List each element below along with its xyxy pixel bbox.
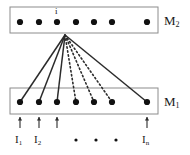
ellipsis-dot <box>74 138 77 141</box>
memory-node-dot <box>73 99 79 105</box>
connection-line-dotted <box>65 35 76 102</box>
memory-node-dot <box>91 99 97 105</box>
label-subscript: 2 <box>176 20 180 29</box>
memory-node-dot <box>17 19 23 25</box>
input-arrows <box>18 117 149 128</box>
memory-node-dot <box>109 99 115 105</box>
connection-line-solid <box>65 35 147 102</box>
memory-node-dot <box>91 19 97 25</box>
memory-node-dot <box>144 99 150 105</box>
memory-node-dot <box>109 19 115 25</box>
memory-node-dot <box>54 99 60 105</box>
memory-node-dot <box>17 99 23 105</box>
selected-node-label: i <box>55 7 58 16</box>
diagram-svg <box>0 0 190 155</box>
input-label: I2 <box>34 134 41 145</box>
label-subscript: 1 <box>19 139 23 147</box>
memory-node-dot <box>144 19 150 25</box>
label-subscript: n <box>146 139 150 147</box>
memory-node-dot <box>73 19 79 25</box>
top-layer-nodes <box>17 19 150 25</box>
memory-node-dot <box>36 19 42 25</box>
top-layer-box <box>10 7 158 33</box>
figure-canvas: M2 i M1 I1I2In <box>0 0 190 155</box>
memory-node-dot <box>36 99 42 105</box>
label-subscript: 1 <box>176 101 180 110</box>
input-label: I1 <box>15 134 22 145</box>
input-ellipsis <box>74 138 117 141</box>
top-layer-label: M2 <box>164 14 180 27</box>
bottom-layer-label: M1 <box>164 95 180 108</box>
input-arrow-head <box>37 117 41 120</box>
memory-node-dot <box>54 19 60 25</box>
input-arrow-head <box>55 117 59 120</box>
connection-line-dotted <box>65 35 94 102</box>
label-subscript: 2 <box>38 139 42 147</box>
fan-out-connections <box>20 35 147 102</box>
bottom-layer-nodes <box>17 99 150 105</box>
input-arrow-head <box>145 117 149 120</box>
ellipsis-dot <box>94 138 97 141</box>
input-arrow-head <box>18 117 22 120</box>
input-label: In <box>142 134 149 145</box>
ellipsis-dot <box>114 138 117 141</box>
